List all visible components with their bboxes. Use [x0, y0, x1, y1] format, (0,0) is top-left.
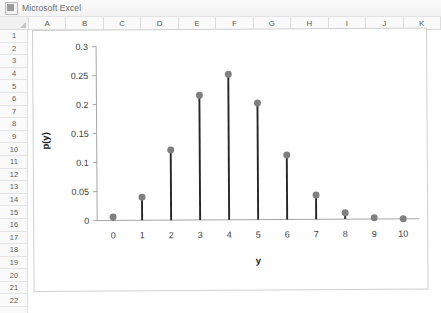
y-axis-line — [96, 47, 97, 221]
y-tick-label: 0.05 — [71, 187, 89, 197]
column-header-b[interactable]: B — [66, 17, 103, 29]
row-header-15[interactable]: 15 — [0, 206, 28, 219]
row-header-2[interactable]: 2 — [0, 43, 28, 56]
row-header-column: 12345678910111213141516171819202122 — [0, 30, 28, 313]
y-tick-label: 0.2 — [76, 100, 89, 110]
data-point-marker[interactable] — [167, 146, 174, 153]
data-point-marker[interactable] — [196, 92, 203, 99]
x-axis-ticks: 012345678910 — [111, 229, 409, 241]
data-point-marker[interactable] — [225, 71, 232, 78]
row-header-17[interactable]: 17 — [0, 232, 28, 245]
y-tick-label: 0.1 — [76, 158, 89, 168]
row-header-4[interactable]: 4 — [0, 68, 28, 81]
y-tick-label: 0.3 — [76, 42, 89, 52]
data-point-marker[interactable] — [283, 152, 290, 159]
x-tick-label: 3 — [198, 230, 203, 240]
y-axis-ticks: 00.050.10.150.20.250.3 — [71, 42, 98, 226]
row-header-3[interactable]: 3 — [0, 55, 28, 68]
column-header-e[interactable]: E — [179, 17, 216, 29]
y-tick-label: 0.15 — [71, 129, 89, 139]
data-point-marker[interactable] — [371, 214, 378, 221]
data-point-marker[interactable] — [400, 215, 407, 222]
data-point-marker[interactable] — [110, 214, 117, 221]
stem-lines — [112, 74, 345, 221]
row-header-22[interactable]: 22 — [0, 294, 28, 307]
stem-line — [228, 74, 229, 220]
row-header-21[interactable]: 21 — [0, 282, 28, 295]
column-header-h[interactable]: H — [291, 17, 328, 29]
row-header-6[interactable]: 6 — [0, 93, 28, 106]
x-tick-label: 5 — [256, 230, 261, 240]
row-header-8[interactable]: 8 — [0, 118, 28, 131]
x-tick-label: 4 — [227, 230, 232, 240]
row-header-13[interactable]: 13 — [0, 181, 28, 194]
x-tick-label: 7 — [314, 229, 319, 239]
column-header-g[interactable]: G — [254, 17, 291, 29]
row-header-16[interactable]: 16 — [0, 219, 28, 232]
pmf-stem-plot: 00.050.10.150.20.250.3 012345678910 p(y)… — [33, 29, 430, 293]
x-tick-label: 0 — [111, 230, 116, 240]
row-header-1[interactable]: 1 — [0, 30, 28, 43]
x-tick-label: 1 — [140, 230, 145, 240]
data-point-marker[interactable] — [138, 194, 145, 201]
row-header-14[interactable]: 14 — [0, 194, 28, 207]
column-header-c[interactable]: C — [104, 17, 141, 29]
title-bar: Microsoft Excel — [0, 0, 441, 17]
excel-icon — [5, 2, 18, 15]
row-header-9[interactable]: 9 — [0, 131, 28, 144]
column-header-d[interactable]: D — [141, 17, 178, 29]
column-header-a[interactable]: A — [29, 17, 66, 29]
row-header-20[interactable]: 20 — [0, 269, 28, 282]
embedded-chart[interactable]: 00.050.10.150.20.250.3 012345678910 p(y)… — [32, 28, 429, 292]
row-header-19[interactable]: 19 — [0, 257, 28, 270]
excel-window: Microsoft Excel ABCDEFGHIJK 123456789101… — [0, 0, 441, 313]
row-header-5[interactable]: 5 — [0, 80, 28, 93]
data-point-marker[interactable] — [342, 209, 349, 216]
x-axis-title: y — [256, 255, 262, 266]
stem-line — [199, 95, 200, 220]
row-header-18[interactable]: 18 — [0, 244, 28, 257]
app-title: Microsoft Excel — [22, 3, 81, 13]
x-tick-label: 9 — [372, 229, 377, 239]
select-all-corner[interactable] — [0, 17, 29, 29]
y-axis-title: p(y) — [40, 132, 51, 149]
row-header-12[interactable]: 12 — [0, 169, 28, 182]
x-tick-label: 6 — [285, 229, 290, 239]
x-tick-label: 10 — [398, 229, 408, 239]
stem-line — [257, 103, 258, 220]
x-tick-label: 8 — [343, 229, 348, 239]
y-tick-label: 0.25 — [71, 71, 89, 81]
column-header-f[interactable]: F — [216, 17, 253, 29]
row-header-10[interactable]: 10 — [0, 143, 28, 156]
x-tick-label: 2 — [169, 230, 174, 240]
y-tick-label: 0 — [84, 216, 89, 226]
row-header-11[interactable]: 11 — [0, 156, 28, 169]
row-header-7[interactable]: 7 — [0, 106, 28, 119]
data-point-marker[interactable] — [254, 100, 261, 107]
data-point-marker[interactable] — [313, 191, 320, 198]
